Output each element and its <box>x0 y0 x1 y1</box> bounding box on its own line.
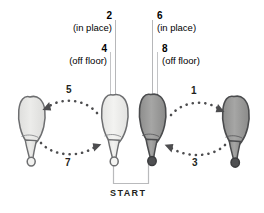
arc-5 <box>42 101 97 113</box>
step-number-2: 2 <box>14 10 112 21</box>
foot-far-left <box>19 96 46 166</box>
step-label-6: 6 (in place) <box>157 10 255 33</box>
step-note-6: (in place) <box>157 22 255 33</box>
foot-far-right <box>223 96 250 167</box>
step-note-4: (off floor) <box>9 55 107 66</box>
arc-number-1: 1 <box>191 85 197 96</box>
step-number-4: 4 <box>9 43 107 54</box>
arc-3 <box>165 144 225 155</box>
leader-lines <box>111 20 158 95</box>
foot-center-right <box>139 94 166 165</box>
footwork-diagram: 2 (in place) 4 (off floor) 6 (in place) … <box>0 0 264 213</box>
arc-number-7: 7 <box>65 157 71 168</box>
arc-1 <box>171 103 225 115</box>
step-number-6: 6 <box>157 10 255 21</box>
start-label: START <box>110 188 146 198</box>
arc-7 <box>41 143 101 154</box>
step-note-8: (off floor) <box>162 55 260 66</box>
step-label-2: 2 (in place) <box>14 10 112 33</box>
arc-number-5: 5 <box>66 84 72 95</box>
start-bracket <box>114 164 149 184</box>
step-note-2: (in place) <box>14 22 112 33</box>
step-number-8: 8 <box>162 43 260 54</box>
step-label-4: 4 (off floor) <box>9 43 107 66</box>
arc-number-3: 3 <box>192 157 198 168</box>
foot-center-left <box>102 95 129 166</box>
step-label-8: 8 (off floor) <box>162 43 260 66</box>
